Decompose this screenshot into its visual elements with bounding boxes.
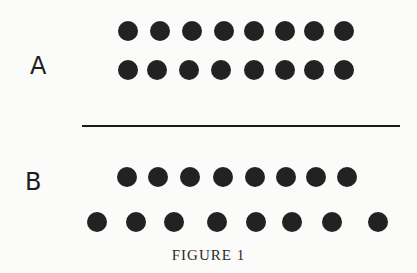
dot bbox=[207, 212, 227, 232]
dot bbox=[322, 212, 342, 232]
panel-a-label: A bbox=[30, 54, 46, 78]
dot bbox=[282, 212, 302, 232]
dot bbox=[306, 167, 326, 187]
dot bbox=[246, 212, 266, 232]
dot bbox=[147, 60, 167, 80]
dot bbox=[179, 60, 199, 80]
dot bbox=[117, 167, 137, 187]
dot bbox=[164, 212, 184, 232]
dot bbox=[180, 167, 200, 187]
dot bbox=[304, 60, 324, 80]
dot bbox=[126, 212, 146, 232]
figure-1: A B FIGURE 1 bbox=[0, 0, 417, 273]
dot bbox=[150, 21, 170, 41]
dot bbox=[118, 21, 138, 41]
dot bbox=[334, 60, 354, 80]
dot bbox=[148, 167, 168, 187]
dot bbox=[211, 60, 231, 80]
dot bbox=[245, 167, 265, 187]
panel-divider bbox=[82, 125, 400, 127]
dot bbox=[368, 212, 388, 232]
figure-caption: FIGURE 1 bbox=[0, 247, 417, 264]
dot bbox=[275, 60, 295, 80]
dot bbox=[244, 21, 264, 41]
dot bbox=[337, 167, 357, 187]
dot bbox=[244, 60, 264, 80]
dot bbox=[334, 21, 354, 41]
dot bbox=[213, 167, 233, 187]
dot bbox=[182, 21, 202, 41]
panel-b-label: B bbox=[25, 170, 41, 194]
dot bbox=[214, 21, 234, 41]
dot bbox=[304, 21, 324, 41]
dot bbox=[276, 167, 296, 187]
dot bbox=[275, 21, 295, 41]
dot bbox=[118, 60, 138, 80]
dot bbox=[87, 212, 107, 232]
